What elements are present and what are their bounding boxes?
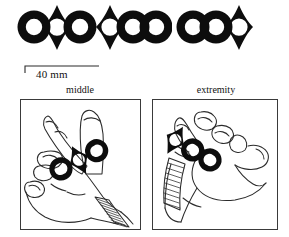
thumb (25, 181, 45, 197)
index-crease (84, 118, 100, 121)
palm-crease-1 (67, 192, 85, 195)
little-finger-folded (230, 135, 247, 153)
panel-middle (20, 99, 141, 230)
palm-lower-contour (26, 192, 91, 222)
ornament-glyph (176, 4, 256, 52)
palm-crease-1 (183, 198, 201, 207)
figure-root: 40 mm middle extremity (0, 0, 289, 237)
forearm-cap (165, 208, 181, 222)
artifact-ornament-lozenge-left (94, 4, 172, 52)
artifact-ornament-lozenge-right (176, 4, 256, 52)
ornament-glyph (94, 4, 172, 52)
palm-crease-2 (51, 184, 66, 191)
thumb-crease (29, 185, 40, 190)
hand-back-contour (86, 174, 121, 212)
panel-label-middle: middle (20, 84, 140, 95)
ring-finger-crease (215, 132, 229, 136)
thumb-crease (256, 149, 264, 159)
panel-extremity (152, 99, 278, 230)
panel-label-extremity: extremity (152, 84, 280, 95)
ornament-glyph (16, 4, 98, 52)
hand-diagram-extremity (153, 100, 277, 229)
hand-diagram-middle (21, 100, 140, 229)
scale-bar-label: 40 mm (36, 68, 68, 80)
middle-finger-crease (198, 118, 212, 122)
middle-finger-folded (194, 112, 216, 131)
artifact-ornament-lozenge-center (16, 4, 98, 52)
palm-web-contour (235, 165, 266, 186)
ring-finger-crease (43, 155, 58, 159)
